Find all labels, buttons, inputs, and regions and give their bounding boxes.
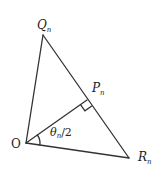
point-label-Q: Qn	[37, 18, 52, 34]
angle-label: θn/2	[50, 126, 72, 140]
point-label-O: O	[11, 137, 21, 151]
right-angle-marker	[81, 105, 92, 111]
point-label-P: Pn	[91, 81, 105, 97]
angle-arc	[37, 135, 40, 145]
geometry-diagram: Qn Pn O Rn θn/2	[0, 0, 167, 176]
segment-OR	[26, 143, 129, 158]
point-label-R: Rn	[137, 150, 152, 166]
segment-OQ	[26, 35, 43, 143]
